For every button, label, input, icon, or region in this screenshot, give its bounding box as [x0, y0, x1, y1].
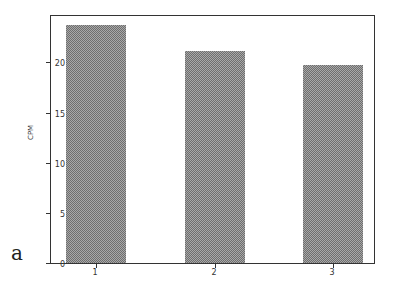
x-tick-label: 1: [92, 268, 97, 277]
y-tick: [46, 263, 50, 264]
y-tick: [46, 62, 50, 63]
bar-2: [185, 51, 245, 263]
bar-3: [303, 65, 363, 263]
x-tick-label: 3: [329, 268, 334, 277]
y-tick: [46, 113, 50, 114]
y-tick: [46, 163, 50, 164]
x-tick-label: 2: [211, 268, 216, 277]
bar-1: [66, 25, 126, 263]
panel-label: a: [11, 241, 23, 265]
y-axis-label: CPM: [27, 125, 35, 140]
y-tick: [46, 213, 50, 214]
plot-area: [50, 15, 375, 264]
